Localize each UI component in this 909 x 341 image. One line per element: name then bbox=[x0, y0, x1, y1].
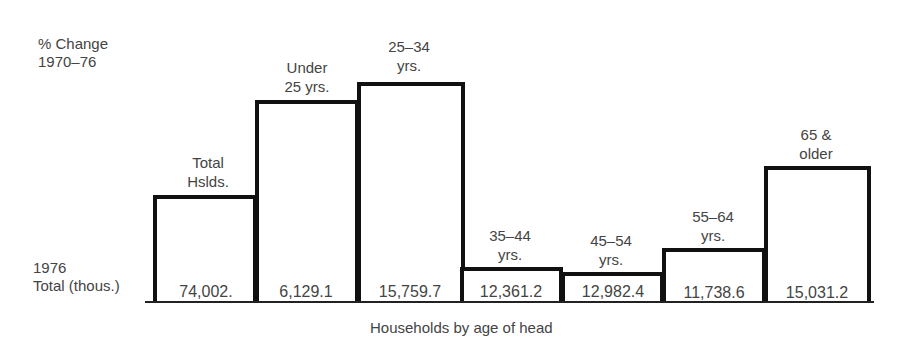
bar-value: 6,129.1 bbox=[279, 283, 332, 301]
y-label-line1: % Change bbox=[38, 35, 108, 53]
bar-value: 12,361.2 bbox=[480, 283, 542, 301]
bar-value: 74,002. bbox=[179, 283, 232, 301]
bar-65-older bbox=[764, 166, 871, 302]
bar-value: 15,031.2 bbox=[786, 284, 848, 302]
baseline bbox=[145, 301, 874, 303]
total-label-line2: Total (thous.) bbox=[33, 277, 120, 295]
category-label: 25–34yrs. bbox=[388, 37, 430, 75]
category-label: 45–54yrs. bbox=[590, 231, 632, 269]
bar-value: 12,982.4 bbox=[582, 283, 644, 301]
category-label: Under25 yrs. bbox=[284, 58, 329, 96]
bar-under-25 bbox=[255, 100, 359, 302]
bar-value: 11,738.6 bbox=[683, 284, 744, 302]
x-axis-title: Households by age of head bbox=[370, 319, 553, 336]
bar-value: 15,759.7 bbox=[379, 283, 441, 301]
bar-25-34 bbox=[357, 82, 465, 302]
category-label: 65 &older bbox=[799, 125, 832, 163]
category-label: TotalHslds. bbox=[187, 153, 229, 191]
total-label-line1: 1976 bbox=[33, 259, 120, 277]
y-axis-label: % Change 1970–76 bbox=[38, 35, 108, 71]
y-label-line2: 1970–76 bbox=[38, 53, 108, 71]
total-row-label: 1976 Total (thous.) bbox=[33, 259, 120, 295]
category-label: 55–64yrs. bbox=[692, 207, 734, 245]
category-label: 35–44yrs. bbox=[489, 226, 531, 264]
